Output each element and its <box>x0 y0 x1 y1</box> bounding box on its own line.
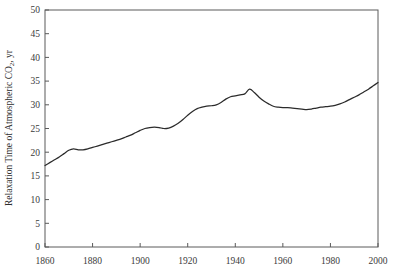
y-tick-label: 0 <box>35 242 40 252</box>
x-tick-label: 1900 <box>131 256 150 266</box>
y-tick-label: 45 <box>31 29 41 39</box>
y-tick-label: 35 <box>31 76 41 86</box>
data-series-line <box>45 83 378 166</box>
y-tick-label: 10 <box>31 195 41 205</box>
x-tick-label: 1980 <box>321 256 340 266</box>
y-tick-label: 20 <box>31 148 41 158</box>
x-axis: 18601880190019201940196019802000 <box>36 243 388 266</box>
y-tick-label: 50 <box>31 5 41 15</box>
y-axis-title-main: Relaxation Time of Atmospheric CO <box>4 66 14 206</box>
y-tick-label: 40 <box>31 53 41 63</box>
plot-frame <box>45 10 378 247</box>
x-tick-label: 1860 <box>36 256 55 266</box>
x-tick-label: 1940 <box>226 256 245 266</box>
x-tick-label: 1880 <box>83 256 102 266</box>
x-tick-label: 1920 <box>178 256 197 266</box>
x-tick-label: 1960 <box>273 256 292 266</box>
y-tick-label: 25 <box>31 124 41 134</box>
y-axis-title: Relaxation Time of Atmospheric CO2, yr <box>4 49 16 206</box>
y-axis-title-suffix: , yr <box>4 49 14 63</box>
y-axis: 05101520253035404550 <box>31 5 50 252</box>
relaxation-time-line-chart: 05101520253035404550 1860188019001920194… <box>0 0 398 277</box>
chart-page: 05101520253035404550 1860188019001920194… <box>0 0 398 277</box>
y-tick-label: 30 <box>31 100 41 110</box>
x-tick-label: 2000 <box>369 256 388 266</box>
y-tick-label: 5 <box>35 219 40 229</box>
y-tick-label: 15 <box>31 171 41 181</box>
plot-border <box>45 10 378 247</box>
y-axis-title-text: Relaxation Time of Atmospheric CO2, yr <box>4 49 16 206</box>
